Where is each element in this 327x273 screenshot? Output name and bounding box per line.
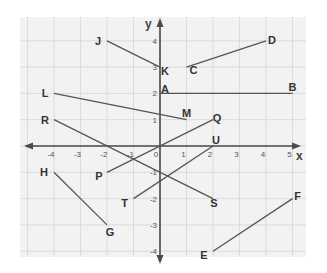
y-tick-label: -3: [150, 221, 158, 230]
point-label-D: D: [268, 34, 276, 46]
point-label-G: G: [106, 226, 115, 238]
point-label-H: H: [40, 166, 48, 178]
x-tick-label: -2: [100, 150, 108, 159]
point-label-L: L: [42, 87, 49, 99]
point-label-F: F: [294, 190, 301, 202]
x-tick-label: 3: [234, 150, 239, 159]
y-tick-label: 2: [153, 89, 158, 98]
point-label-E: E: [200, 249, 207, 261]
coordinate-plane: -4-3-2-10123454321-1-2-3-4 JKCDABLMRSPQT…: [0, 0, 327, 273]
point-label-S: S: [210, 197, 217, 209]
y-axis-down-arrow-icon: [157, 255, 164, 264]
x-tick-label: 5: [287, 150, 292, 159]
y-tick-label: 4: [153, 37, 158, 46]
y-axis-label: y: [145, 17, 152, 31]
point-label-P: P: [95, 170, 102, 182]
y-tick-label: -2: [150, 195, 158, 204]
point-label-M: M: [182, 107, 191, 119]
x-tick-label: 1: [181, 150, 186, 159]
point-label-A: A: [161, 83, 169, 95]
x-tick-label: -4: [47, 150, 55, 159]
point-label-U: U: [212, 134, 220, 146]
x-tick-label: -3: [74, 150, 82, 159]
point-label-R: R: [41, 114, 49, 126]
point-label-J: J: [95, 35, 101, 47]
x-tick-label: 2: [208, 150, 213, 159]
x-tick-label: 4: [261, 150, 266, 159]
grid-background: [20, 17, 306, 257]
y-tick-label: 1: [153, 116, 158, 125]
point-label-T: T: [121, 197, 128, 209]
point-label-Q: Q: [213, 112, 222, 124]
x-tick-label: 0: [154, 150, 159, 159]
point-label-K: K: [161, 65, 169, 77]
x-axis-label: x: [296, 149, 303, 163]
y-tick-label: -4: [150, 247, 158, 256]
point-label-B: B: [289, 81, 297, 93]
point-label-C: C: [190, 64, 198, 76]
